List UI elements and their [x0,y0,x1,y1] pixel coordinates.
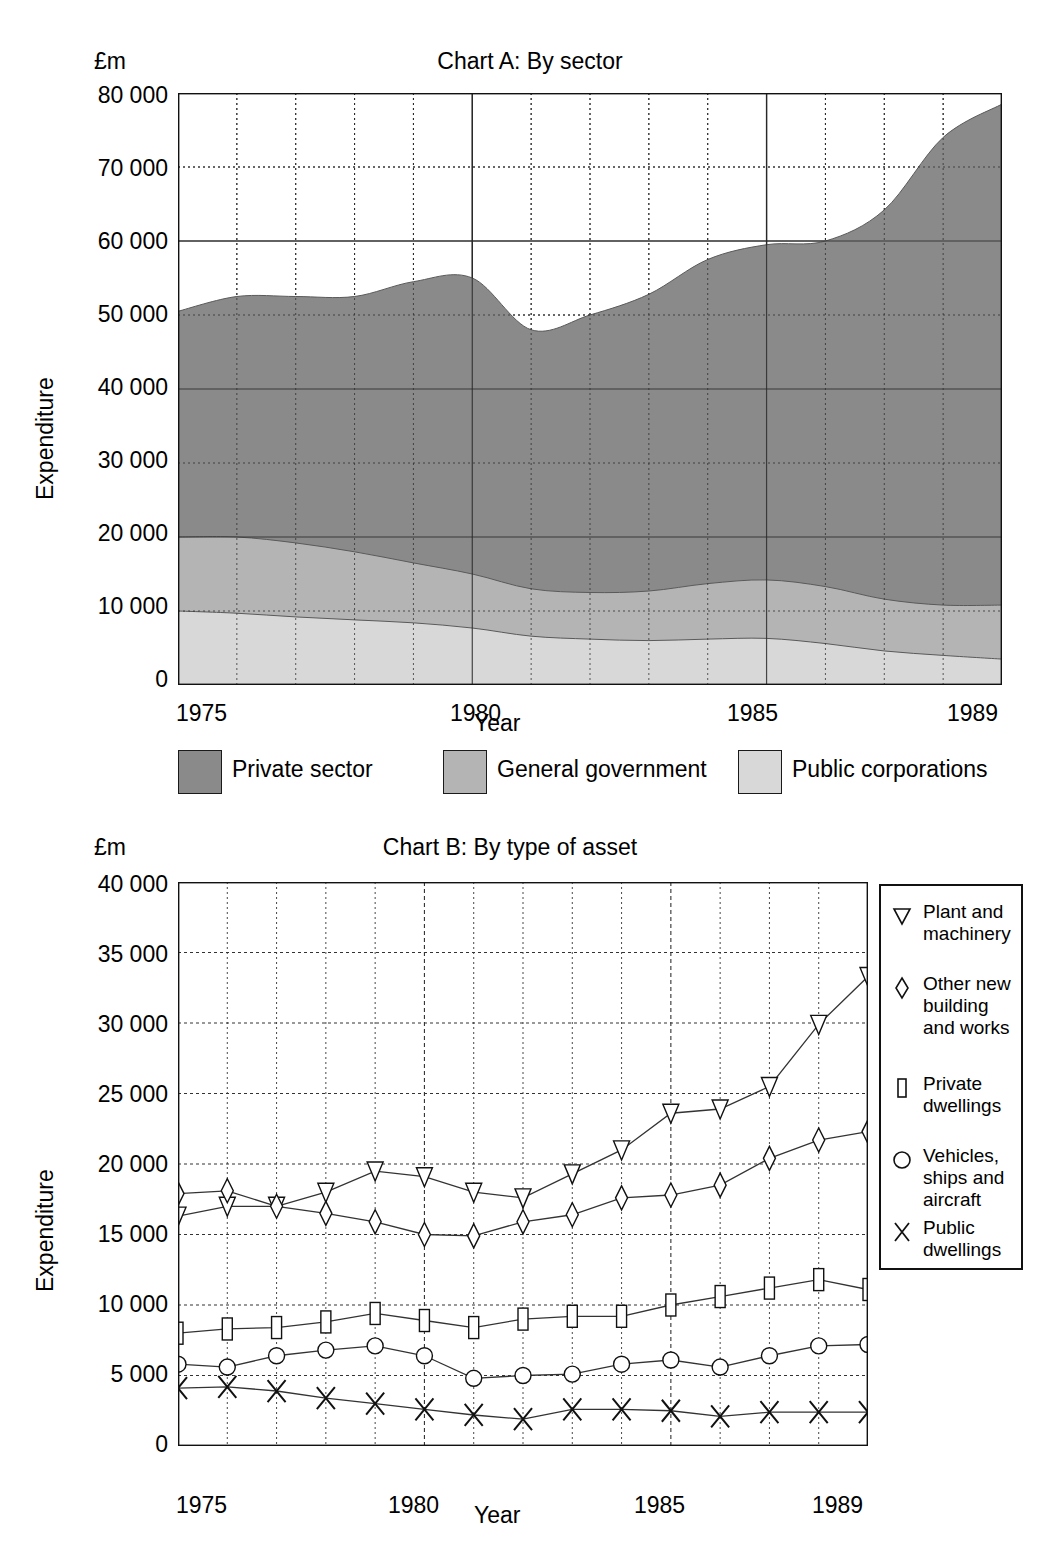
chart-a-ytick-80000: 80 000 [26,82,168,109]
chart-a-ytick-20000: 20 000 [26,520,168,547]
chart-a-legend: Private sector General government Public… [0,748,1049,804]
legend-swatch-private-sector [178,750,222,794]
chart-a-xtick-1975: 1975 [176,700,227,727]
cross-icon [889,1220,915,1244]
chart-b-ytick-30000: 30 000 [26,1011,168,1038]
chart-a-ytick-40000: 40 000 [26,374,168,401]
legend-label-other-new-building-and-works: Other new building and works [923,973,1011,1039]
chart-b-plot [178,882,868,1446]
chart-b-ytick-15000: 15 000 [26,1221,168,1248]
circle-icon [889,1148,915,1172]
chart-b-xtick-1980: 1980 [388,1492,439,1519]
triangle-down-icon [889,904,915,928]
chart-a-title: Chart A: By sector [300,48,760,75]
chart-b-ytick-5000: 5 000 [26,1361,168,1388]
chart-b-ytick-10000: 10 000 [26,1291,168,1318]
chart-a-ytick-10000: 10 000 [26,593,168,620]
chart-b-ytick-25000: 25 000 [26,1081,168,1108]
legend-label-public-corporations: Public corporations [792,756,988,783]
chart-b-x-axis-title: Year [474,1502,520,1529]
chart-a-xtick-1980: 1980 [450,700,501,727]
chart-a-ytick-70000: 70 000 [26,155,168,182]
chart-a-unit-label: £m [94,48,126,75]
chart-a-xtick-1985: 1985 [727,700,778,727]
chart-a-ytick-0: 0 [26,666,168,693]
chart-a-ytick-30000: 30 000 [26,447,168,474]
chart-a-plot [178,93,1002,685]
diamond-icon [889,976,915,1000]
chart-a-ytick-50000: 50 000 [26,301,168,328]
legend-label-private-sector: Private sector [232,756,373,783]
legend-swatch-public-corporations [738,750,782,794]
chart-b-legend: Plant and machinery Other new building a… [879,884,1023,1270]
chart-b-title: Chart B: By type of asset [280,834,740,861]
chart-b-xtick-1985: 1985 [634,1492,685,1519]
chart-b-ytick-40000: 40 000 [26,871,168,898]
chart-b-xtick-1975: 1975 [176,1492,227,1519]
legend-label-vehicles-ships-and-aircraft: Vehicles, ships and aircraft [923,1145,1004,1211]
chart-a-ytick-60000: 60 000 [26,228,168,255]
legend-swatch-general-government [443,750,487,794]
legend-label-plant-and-machinery: Plant and machinery [923,901,1011,945]
chart-b-ytick-0: 0 [26,1431,168,1458]
chart-b-unit-label: £m [94,834,126,861]
legend-label-public-dwellings: Public dwellings [923,1217,1001,1261]
chart-b-xtick-1989: 1989 [812,1492,863,1519]
legend-label-private-dwellings: Private dwellings [923,1073,1001,1117]
chart-b-ytick-20000: 20 000 [26,1151,168,1178]
chart-b-ytick-35000: 35 000 [26,941,168,968]
chart-a-xtick-1989: 1989 [947,700,998,727]
chart-a-block: £m Chart A: By sector Expenditure Year 8… [0,0,1049,810]
legend-label-general-government: General government [497,756,707,783]
rect-icon [889,1076,915,1100]
